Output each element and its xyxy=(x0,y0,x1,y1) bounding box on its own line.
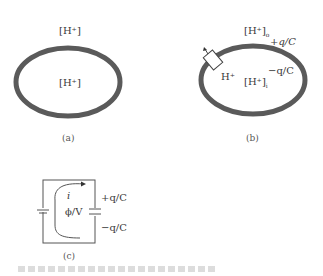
panel-a-inside-label: [H⁺] xyxy=(59,78,81,88)
panel-b-caption: (b) xyxy=(246,133,259,143)
panel-c-plus-charge: +q/C xyxy=(101,193,127,203)
outside-conc: [H⁺] xyxy=(244,25,266,36)
panel-b-inside-label: [H⁺]i xyxy=(244,77,268,91)
inside-sub: i xyxy=(266,82,268,89)
panel-c-caption: (c) xyxy=(63,251,75,261)
panel-a-outside-label: [H⁺] xyxy=(59,26,81,36)
panel-b-plus-charge: +q/C xyxy=(270,37,296,47)
figure-caption-cropped xyxy=(18,266,218,272)
panel-a-caption: (a) xyxy=(62,133,74,143)
panel-c-minus-charge: −q/C xyxy=(101,223,127,233)
inside-conc: [H⁺] xyxy=(244,76,266,87)
outside-sub: o xyxy=(266,31,270,38)
panel-b-minus-charge: −q/C xyxy=(268,66,294,76)
panel-c-current-label: i xyxy=(67,191,70,201)
panel-b-outside-label: [H⁺]o xyxy=(244,26,269,40)
current-arrow-icon xyxy=(81,182,86,187)
panel-b-pump-label: H⁺ xyxy=(221,72,235,82)
panel-c-potential-label: ϕ/V xyxy=(65,207,82,217)
